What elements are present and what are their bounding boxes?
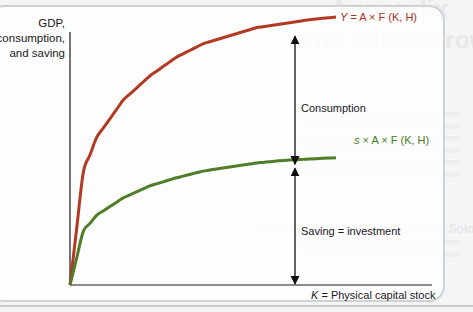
page: Appendix The Solow Growth Model The Thre… [0, 0, 473, 312]
y-axis-label: GDP, consumption, and saving [0, 16, 65, 61]
saving-curve-label: s × A × F (K, H) [354, 134, 429, 146]
output-curve-label: Y = A × F (K, H) [340, 11, 417, 23]
x-axis-label-text: = Physical capital stock [318, 289, 435, 301]
consumption-label: Consumption [301, 102, 366, 114]
y-axis-label-line: consumption, [0, 31, 65, 46]
saving-formula: × A × F (K, H) [360, 134, 430, 146]
saving-curve [70, 158, 336, 285]
saving-investment-label: Saving = investment [301, 225, 400, 237]
x-axis-label: K = Physical capital stock [311, 289, 435, 301]
y-axis-label-line: and saving [0, 46, 65, 61]
solow-diagram [0, 0, 473, 312]
output-curve [70, 17, 336, 285]
output-formula: = A × F (K, H) [347, 11, 417, 23]
y-axis-label-line: GDP, [0, 16, 65, 31]
